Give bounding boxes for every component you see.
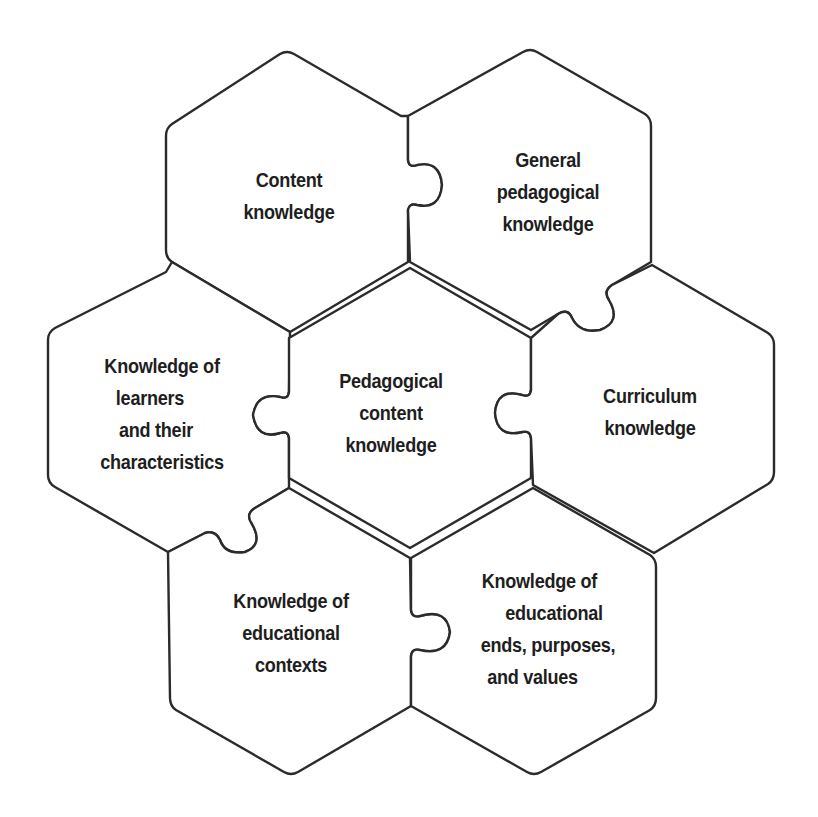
label-knowledge-of-educational-ends: Knowledge of educational ends, purposes,… [462,565,634,693]
label-line: knowledge [203,196,375,228]
label-line: knowledge [564,412,736,444]
label-line: educational [474,597,634,629]
label-line: knowledge [305,429,477,461]
label-knowledge-of-educational-contexts: Knowledge of educational contexts [205,585,377,681]
label-line: contexts [205,649,377,681]
label-line: Curriculum [564,380,736,412]
label-curriculum-knowledge: Curriculum knowledge [564,380,736,444]
label-content-knowledge: Content knowledge [203,164,375,228]
label-line: ends, purposes, [462,629,634,661]
label-line: and values [431,661,634,693]
label-line: Knowledge of [76,350,248,382]
label-line: Content [203,164,375,196]
label-line: knowledge [462,208,634,240]
label-line: and their [64,414,248,446]
label-line: educational [205,617,377,649]
label-line: Knowledge of [205,585,377,617]
label-line: learners [52,382,248,414]
label-pedagogical-content-knowledge: Pedagogical content knowledge [305,365,477,461]
label-line: content [305,397,477,429]
label-line: General [462,144,634,176]
label-line: Knowledge of [445,565,634,597]
label-line: characteristics [76,446,248,478]
label-line: pedagogical [462,176,634,208]
label-line: Pedagogical [305,365,477,397]
label-knowledge-of-learners: Knowledge of learners and their characte… [76,350,248,478]
label-general-pedagogical-knowledge: General pedagogical knowledge [462,144,634,240]
